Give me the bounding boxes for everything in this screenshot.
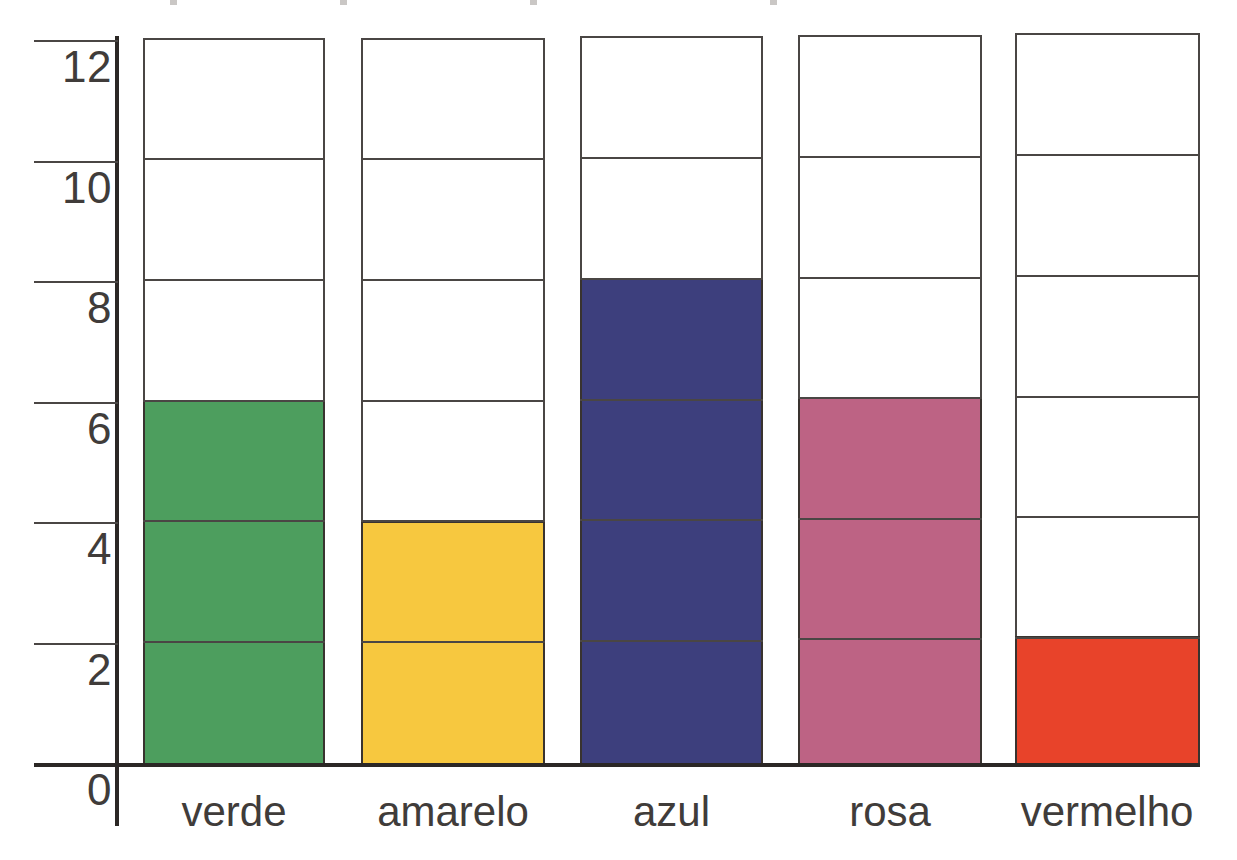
bar-gridline-4 (361, 520, 545, 522)
bar-gridline-4 (580, 519, 763, 521)
bar-gridline-2 (798, 638, 982, 640)
y-tick-label-8: 8 (38, 283, 112, 333)
bar-group-verde[interactable] (143, 0, 325, 860)
bar-fill-vermelho[interactable] (1015, 636, 1200, 765)
bar-gridline-8 (361, 279, 545, 281)
bar-gridline-10 (580, 157, 763, 159)
bar-gridline-6 (143, 400, 325, 402)
bar-gridline-2 (143, 641, 325, 643)
bar-gridline-2 (1015, 637, 1200, 639)
bar-gridline-4 (1015, 516, 1200, 518)
x-tick-label-vermelho: vermelho (1012, 786, 1202, 838)
bar-gridline-10 (143, 158, 325, 160)
bar-gridline-10 (798, 156, 982, 158)
bar-chart: 12 10 8 6 4 2 0 (0, 0, 1237, 860)
x-tick-label-verde: verde (143, 786, 325, 838)
bar-gridline-8 (143, 279, 325, 281)
bar-gridline-2 (580, 640, 763, 642)
bar-gridline-6 (580, 399, 763, 401)
bar-group-rosa[interactable] (798, 0, 982, 860)
y-tick-label-4: 4 (38, 524, 112, 574)
x-axis-baseline (34, 763, 1200, 767)
bar-gridline-6 (798, 397, 982, 399)
y-tick-label-10: 10 (38, 163, 112, 213)
bar-gridline-6 (361, 400, 545, 402)
y-tick-label-6: 6 (38, 404, 112, 454)
y-tick-label-2: 2 (38, 645, 112, 695)
bar-gridline-6 (1015, 396, 1200, 398)
y-tick-label-12: 12 (38, 42, 112, 92)
bar-gridline-2 (361, 641, 545, 643)
bar-gridline-8 (798, 277, 982, 279)
bar-gridline-10 (1015, 154, 1200, 156)
bar-gridline-8 (580, 278, 763, 280)
x-tick-label-azul: azul (580, 786, 763, 838)
bar-fill-rosa[interactable] (798, 397, 982, 765)
bar-group-azul[interactable] (580, 0, 763, 860)
x-tick-label-rosa: rosa (798, 786, 982, 838)
bar-gridline-8 (1015, 275, 1200, 277)
y-axis-line (115, 36, 119, 826)
bar-gridline-10 (361, 158, 545, 160)
bar-fill-azul[interactable] (580, 278, 763, 765)
plot-area: 12 10 8 6 4 2 0 (0, 0, 1237, 860)
bar-fill-amarelo[interactable] (361, 521, 545, 765)
x-tick-label-amarelo: amarelo (361, 786, 545, 838)
bar-gridline-4 (798, 518, 982, 520)
bar-gridline-4 (143, 520, 325, 522)
bar-group-amarelo[interactable] (361, 0, 545, 860)
bar-fill-verde[interactable] (143, 400, 325, 765)
y-tick-label-0: 0 (38, 765, 112, 815)
bar-group-vermelho[interactable] (1015, 0, 1200, 860)
